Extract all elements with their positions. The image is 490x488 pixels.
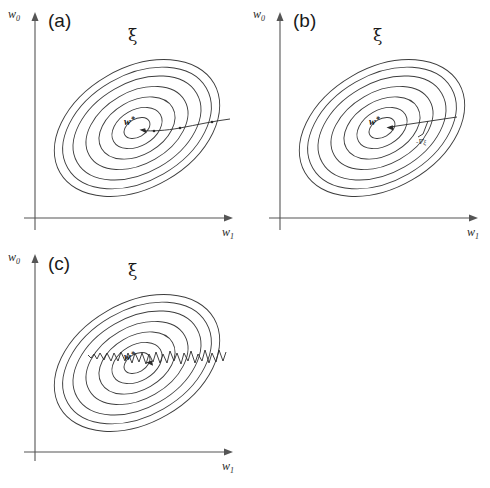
panel-b-trajectory [387, 117, 458, 137]
panel-a-y-axis [32, 12, 39, 230]
panel-b-label: (b) [293, 10, 316, 31]
figure-canvas: w0 w1 (a) ξ w* [0, 0, 490, 488]
panel-b-contours [275, 32, 489, 225]
panel-b-x-axis-label: w1 [467, 225, 479, 241]
panel-c-label: (c) [48, 253, 70, 274]
panel-c-y-axis-label: w0 [8, 250, 20, 266]
panel-a-x-axis [24, 215, 233, 222]
panel-c-x-axis [24, 449, 233, 456]
panel-b-gradient-label: -∇ξ [416, 138, 426, 146]
panel-b-contour-label: ξ [373, 25, 382, 45]
panel-b-y-axis [277, 12, 284, 230]
panel-c-trajectory [88, 350, 226, 366]
panel-c-y-axis [32, 254, 39, 461]
panel-c-x-axis-label: w1 [222, 459, 234, 475]
panel-a-contour-label: ξ [128, 25, 137, 45]
panel-c-contour-label: ξ [128, 260, 137, 280]
panel-a-label: (a) [48, 10, 71, 31]
panel-b-y-axis-label: w0 [253, 7, 265, 23]
panel-a-trajectory [140, 119, 231, 133]
panel-a: w0 w1 (a) ξ w* [8, 7, 244, 241]
panel-b-optimum-label: w* [369, 115, 381, 127]
panel-b: w0 w1 (b) ξ w* -∇ξ [253, 7, 489, 241]
panel-a-contours [30, 32, 244, 225]
panel-a-optimum-label: w* [124, 115, 136, 127]
panel-a-y-axis-label: w0 [8, 7, 20, 23]
panel-c: w0 w1 (c) ξ w* [8, 250, 244, 475]
panel-c-contours [30, 267, 244, 460]
panel-a-x-axis-label: w1 [222, 225, 234, 241]
panel-b-x-axis [269, 215, 478, 222]
